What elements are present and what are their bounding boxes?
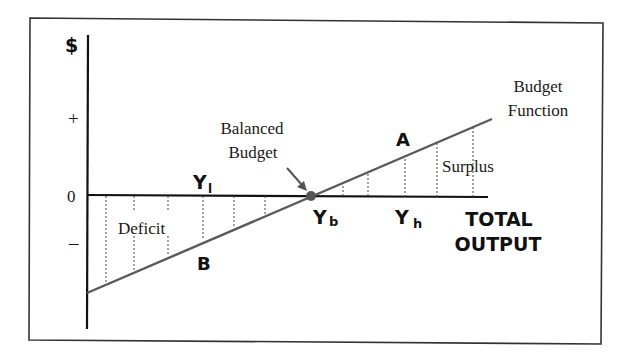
point-b-label: B [197,253,211,274]
svg-text:l: l [208,182,212,196]
balanced-budget-point [306,191,316,201]
y-axis [87,35,88,329]
tick-minus: – [68,232,79,253]
y-h-marker: Y h [394,206,422,231]
budget-function-label: Budget [513,77,562,96]
budget-function-label-2: Function [508,101,569,120]
deficit-hatching [106,196,265,283]
deficit-label: Deficit [118,219,165,238]
x-axis-title-2: OUTPUT [455,233,542,255]
tick-plus: + [68,108,79,129]
y-axis-label: $ [65,34,78,56]
budget-function-line [87,119,492,293]
svg-text:h: h [413,216,422,231]
x-axis-title: TOTAL [465,208,532,230]
budget-diagram: $ + 0 – Balanced Budget Budget Function … [0,0,624,362]
surplus-label: Surplus [442,157,494,176]
arrow-icon [287,168,307,191]
diagram-frame [29,18,603,344]
y-l-marker: Y l [192,171,212,196]
y-b-marker: Y b [312,206,338,229]
svg-text:Y: Y [192,171,207,193]
balanced-budget-label-2: Budget [228,143,277,162]
point-a-label: A [396,129,410,150]
tick-zero: 0 [67,187,76,206]
balanced-budget-label: Balanced [220,119,284,138]
x-axis [87,195,488,197]
svg-text:Y: Y [394,206,409,228]
svg-text:Y: Y [312,206,327,228]
svg-text:b: b [329,214,338,229]
